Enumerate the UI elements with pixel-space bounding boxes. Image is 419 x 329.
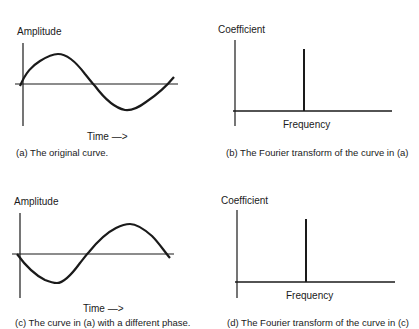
panel-b-plot — [233, 40, 392, 126]
panel-b-y-label: Coefficient — [218, 25, 265, 35]
panel-a-sine-curve — [20, 54, 174, 110]
panel-a-x-label: Time —> — [87, 132, 127, 142]
panel-c-y-label: Amplitude — [14, 197, 58, 207]
fourier-diagram — [0, 0, 419, 329]
panel-a-y-label: Amplitude — [17, 27, 61, 37]
panel-d-caption: (d) The Fourier transform of the curve i… — [227, 318, 409, 328]
panel-d-plot — [235, 210, 395, 298]
panel-c-plot — [12, 213, 174, 298]
panel-c-caption: (c) The curve in (a) with a different ph… — [15, 318, 190, 328]
panel-c-x-label: Time —> — [83, 304, 123, 314]
panel-d-y-label: Coefficient — [221, 196, 268, 206]
panel-b-x-label: Frequency — [283, 120, 330, 130]
panel-a-plot — [15, 43, 178, 126]
panel-d-x-label: Frequency — [286, 291, 333, 301]
panel-a-caption: (a) The original curve. — [16, 148, 108, 158]
panel-b-caption: (b) The Fourier transform of the curve i… — [226, 148, 409, 158]
